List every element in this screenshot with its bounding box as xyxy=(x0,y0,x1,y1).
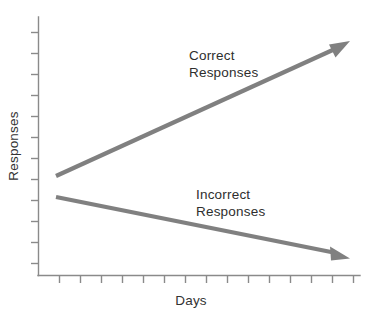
y-axis-title: Responses xyxy=(6,111,21,180)
correct-responses-label-line2: Responses xyxy=(189,65,258,80)
x-axis-ticks xyxy=(60,276,354,284)
responses-over-days-chart: Correct Responses Incorrect Responses Re… xyxy=(0,0,369,319)
incorrect-responses-label: Incorrect Responses xyxy=(196,187,265,219)
incorrect-responses-arrowhead xyxy=(330,247,350,261)
correct-responses-arrowhead xyxy=(329,41,350,58)
incorrect-responses-label-line1: Incorrect xyxy=(196,187,250,202)
y-axis-ticks xyxy=(31,33,39,264)
correct-responses-label-line1: Correct xyxy=(189,48,235,63)
correct-responses-label: Correct Responses xyxy=(189,48,258,80)
x-axis-title: Days xyxy=(175,293,207,308)
chart-canvas: Correct Responses Incorrect Responses Re… xyxy=(0,0,369,319)
incorrect-responses-label-line2: Responses xyxy=(196,204,265,219)
